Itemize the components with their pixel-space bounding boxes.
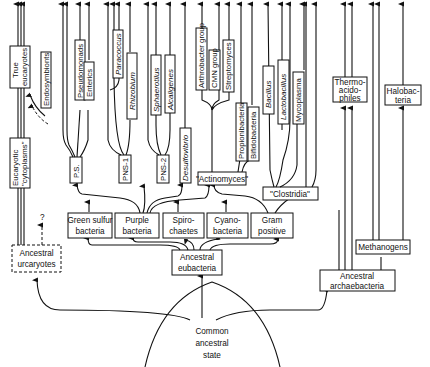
arthrobacter-label: Arthrobacter group xyxy=(197,22,206,88)
branch-to-actinomyces xyxy=(214,185,268,213)
eubacteria-label-line2: eubacteria xyxy=(178,264,217,273)
ps-to-enterics xyxy=(80,110,88,157)
spirochaetes-label-line2: chaetes xyxy=(169,227,198,236)
gram-positive-label-line1: Gram xyxy=(262,216,283,225)
true-eucaryotes-label-line1: True xyxy=(11,62,20,78)
purple-label-line1: Purple xyxy=(125,216,149,225)
ps-label: P.S. xyxy=(72,164,81,178)
eubacteria-branch: Ancestral eubacteria Green sulfur bacter… xyxy=(63,4,318,275)
question-mark: ? xyxy=(40,213,45,222)
ps-to-pseudomonads xyxy=(77,110,80,157)
branch-to-cyanobacteria xyxy=(200,239,218,250)
root-label-line1: Common xyxy=(195,327,229,336)
cytoplasms-label-line1: Eucaryotic xyxy=(11,149,20,186)
root-label-line3: state xyxy=(203,351,221,360)
urcaryotes-label-line2: urcaryotes xyxy=(17,260,55,269)
enterics-label: Enterics xyxy=(85,69,94,97)
spirochaetes-label-line1: Spiro- xyxy=(173,216,195,225)
green-sulfur-label-line1: Green sulfur xyxy=(67,216,112,225)
mycoplasma-label: Mycoplasma xyxy=(294,78,303,122)
cyanobacteria-label-line2: bacteria xyxy=(213,227,243,236)
methanogens-label: Methanogens xyxy=(358,243,408,252)
archaebacteria-branch: Ancestral archaebacteria Thermo- acido- … xyxy=(320,4,421,291)
sphaerotilus-label: Sphaerotilus xyxy=(152,68,161,112)
clostridia-label: "Clostridia" xyxy=(270,190,310,199)
branch-to-urcaryotes xyxy=(37,280,190,320)
cytoplasms-label-line2: "cytoplasms" xyxy=(20,141,29,186)
ps-lineage-b xyxy=(67,4,75,157)
urcaryotes-label-line1: Ancestral xyxy=(19,249,53,258)
common-ancestral-state-node: Common ancestral state xyxy=(145,282,280,367)
bacillus-label: Bacillus xyxy=(264,80,273,108)
actinomyces-label: "Actinomyces" xyxy=(196,175,248,184)
alcaligenes-label: Alcaligenes xyxy=(166,69,175,111)
thermoacidophiles-label-line3: philes xyxy=(339,94,360,103)
branch-to-purple xyxy=(133,238,188,250)
archaebacteria-label-line2: archaebacteria xyxy=(330,282,385,291)
halobacteria-label-line1: Halobac- xyxy=(387,87,420,96)
pns2-label: PNS-2 xyxy=(159,158,168,181)
branch-to-green-sulfur xyxy=(88,238,180,250)
archaebacteria-label-line1: Ancestral xyxy=(340,272,374,281)
paracoccus-label: Paracoccus xyxy=(114,33,123,75)
halobacteria-label-line2: teria xyxy=(395,96,411,105)
lactobacillus-label: Lactobacillus xyxy=(279,74,288,120)
streptomyces-label: Streptomyces xyxy=(224,42,233,90)
clostridia-lineage-b xyxy=(312,4,316,187)
pns1-label: PNS-1 xyxy=(121,158,130,181)
endosymbiont-arrow-2 xyxy=(32,106,48,124)
cmn-group-label: CMN group xyxy=(210,47,219,88)
bifidobacteria-label: Bifidobacteria xyxy=(249,111,258,159)
branch-to-gram-positive xyxy=(210,239,278,250)
root-label-line2: ancestral xyxy=(195,339,228,348)
propionibacteria-label: Propionibacteria xyxy=(237,102,246,159)
endosymbionts-label: Endosymbionts xyxy=(42,53,51,106)
branch-to-archaebacteria xyxy=(216,290,327,320)
to-mycoplasma xyxy=(280,120,297,187)
pns1-to-rhizobium xyxy=(126,120,130,155)
purple-label-line2: bacteria xyxy=(122,227,152,236)
ps-lineage-a xyxy=(63,4,73,157)
eubacteria-label-line1: Ancestral xyxy=(180,253,214,262)
green-sulfur-label-line2: bacteria xyxy=(75,227,105,236)
desulfovibrio-label: Desulfovibrio xyxy=(181,134,190,181)
branch-to-pns1 xyxy=(143,186,145,213)
cyanobacteria-label-line1: Cyano- xyxy=(214,216,241,225)
gram-positive-label-line2: positive xyxy=(258,227,286,236)
eukaryote-branch: Ancestral urcaryotes ? Eucaryotic "cytop… xyxy=(10,4,61,272)
phylogenetic-tree-diagram: Common ancestral state Ancestral urcaryo… xyxy=(0,0,430,367)
rhizobium-label: Rhizobium xyxy=(128,72,137,110)
true-eucaryotes-label-line2: eucaryotes xyxy=(20,48,29,86)
branch-to-ps xyxy=(77,185,140,213)
root-branches xyxy=(37,276,327,320)
